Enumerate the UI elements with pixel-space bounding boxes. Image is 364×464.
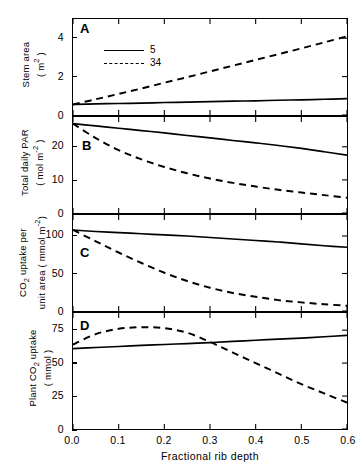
panel-d-curves xyxy=(73,313,347,429)
panel-c-ytick-mark xyxy=(72,311,77,312)
legend-label-34: 34 xyxy=(150,57,161,68)
xaxis-title: Fractional rib depth xyxy=(72,450,348,462)
panel-b-ylabel-line1: Total daily PAR xyxy=(19,129,30,196)
panel-a-ytick-mark xyxy=(72,115,77,116)
panel-b-ytick-label: 0 xyxy=(38,207,64,219)
panel-d-ytick-mark xyxy=(72,396,77,397)
xtick-label: 0.4 xyxy=(241,434,271,446)
panel-a-ytick-label: 2 xyxy=(38,70,64,82)
panel-b-series-5 xyxy=(73,124,347,155)
panel-c-ytick-label: 50 xyxy=(38,267,64,279)
panel-d-ytick-label: 50 xyxy=(38,356,64,368)
panel-c-ylabel-line1: CO2 uptake per xyxy=(17,228,28,297)
panel-b-series-34 xyxy=(73,124,347,198)
panel-a-ytick-mark xyxy=(72,76,77,77)
panel-c-ytick-mark xyxy=(72,273,77,274)
panel-d-ytick-label: 75 xyxy=(38,322,64,334)
panel-b-letter: B xyxy=(82,138,91,153)
panel-b-ytick-mark xyxy=(72,146,77,147)
panel-c-plot-area xyxy=(72,214,348,312)
panel-d-ylabel-line1: Plant CO2 uptake xyxy=(27,329,38,406)
xtick-label: 0.2 xyxy=(149,434,179,446)
panel-d-series-5 xyxy=(73,335,347,348)
xtick-label: 0.3 xyxy=(195,434,225,446)
xtick-label: 0.0 xyxy=(57,434,87,446)
panel-d-ytick-label: 25 xyxy=(38,389,64,401)
panel-c-series-34 xyxy=(73,230,347,306)
legend: 5 34 xyxy=(104,44,184,70)
legend-entry-34: 34 xyxy=(104,57,184,70)
legend-line-dashed-icon xyxy=(104,63,144,64)
panel-d-plot-area xyxy=(72,312,348,430)
figure-panel-group: A Stem area ( m2 ) B Total daily PAR ( m… xyxy=(0,0,364,464)
xtick-label: 0.6 xyxy=(333,434,363,446)
panel-b-ylabel: Total daily PAR ( mol m-2 ) xyxy=(19,113,44,213)
panel-c-ytick-label: 0 xyxy=(38,305,64,317)
panel-b-ytick-label: 10 xyxy=(38,173,64,185)
panel-a-ytick-mark xyxy=(72,37,77,38)
panel-c-ytick-mark xyxy=(72,235,77,236)
panel-d-ytick-mark xyxy=(72,362,77,363)
panel-c-ytick-label: 100 xyxy=(38,228,64,240)
legend-entry-5: 5 xyxy=(104,44,184,57)
panel-b-plot-area xyxy=(72,116,348,214)
panel-c-letter: C xyxy=(80,245,89,260)
panel-a-letter: A xyxy=(80,21,89,36)
panel-d-ytick-mark xyxy=(72,429,77,430)
panel-a-ylabel-line1: Stem area xyxy=(20,42,31,88)
panel-a-ylabel: Stem area ( m2 ) xyxy=(20,15,45,115)
panel-b-ylabel-line2: ( mol m-2 ) xyxy=(30,113,44,213)
panel-b-ytick-mark xyxy=(72,180,77,181)
panel-d-ytick-mark xyxy=(72,329,77,330)
panel-d-letter: D xyxy=(80,318,89,333)
panel-a-ytick-label: 4 xyxy=(38,31,64,43)
panel-a-ylabel-line2: ( m2 ) xyxy=(31,15,45,115)
xtick-label: 0.5 xyxy=(287,434,317,446)
panel-b-ytick-label: 20 xyxy=(38,139,64,151)
legend-line-solid-icon xyxy=(104,50,144,51)
panel-c-curves xyxy=(73,215,347,311)
panel-a-series-5 xyxy=(73,99,347,105)
panel-c-series-5 xyxy=(73,230,347,247)
panel-a-ytick-label: 0 xyxy=(38,109,64,121)
panel-b-curves xyxy=(73,117,347,213)
legend-label-5: 5 xyxy=(150,44,156,55)
xtick-label: 0.1 xyxy=(103,434,133,446)
panel-b-ytick-mark xyxy=(72,213,77,214)
